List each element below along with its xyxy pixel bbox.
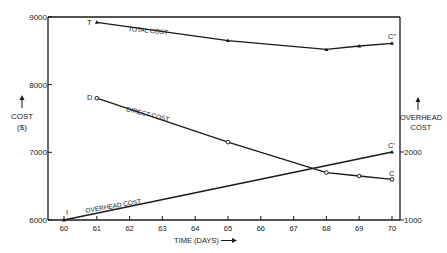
total-cost-line [95,20,394,51]
svg-text:9000: 9000 [29,13,47,22]
svg-text:OVERHEAD: OVERHEAD [400,113,443,122]
svg-text:7000: 7000 [29,148,47,157]
svg-text:66: 66 [257,224,265,233]
overhead-cost-line [62,150,394,222]
svg-text:63: 63 [158,224,166,233]
overhead-cost-label: OVERHEAD COST [85,197,142,214]
x-axis-title: TIME (DAYS) [174,236,237,245]
svg-text:1000: 1000 [404,216,422,225]
total-cost-label: TOTAL COST [128,25,168,35]
svg-text:COST: COST [411,123,432,132]
x-axis-ticks: 6061626364656667686970 [60,216,396,233]
y-axis-right-title: OVERHEAD COST [400,97,443,132]
svg-text:8000: 8000 [29,81,47,90]
point-label-I: I [66,208,68,217]
point-label-C: C [389,169,395,178]
cost-time-chart: 6061626364656667686970 6000700080009000 … [0,0,447,253]
svg-text:61: 61 [93,224,101,233]
arrow-up-icon [20,95,25,100]
point-label-D: D [87,93,93,102]
svg-text:70: 70 [388,224,396,233]
svg-text:62: 62 [125,224,133,233]
svg-text:60: 60 [60,224,68,233]
svg-text:64: 64 [191,224,199,233]
series-lines [62,20,394,221]
point-label-T: T [87,18,92,27]
svg-text:2000: 2000 [404,148,422,157]
svg-text:69: 69 [355,224,363,233]
svg-text:COST: COST [11,112,33,121]
point-label-C-double-prime: C" [388,32,396,41]
arrow-up-icon [416,97,421,102]
svg-text:67: 67 [289,224,297,233]
svg-text:68: 68 [322,224,330,233]
svg-text:TIME (DAYS): TIME (DAYS) [174,236,219,245]
arrow-right-icon [232,238,237,243]
y-axis-left-title: COST ($) [11,95,33,132]
direct-cost-label: DIRECT COST [126,105,170,122]
svg-text:($): ($) [17,123,27,132]
svg-text:6000: 6000 [29,216,47,225]
point-label-C-prime: C' [388,141,395,150]
svg-text:65: 65 [224,224,232,233]
y-axis-right-ticks: 10002000 [400,148,422,225]
